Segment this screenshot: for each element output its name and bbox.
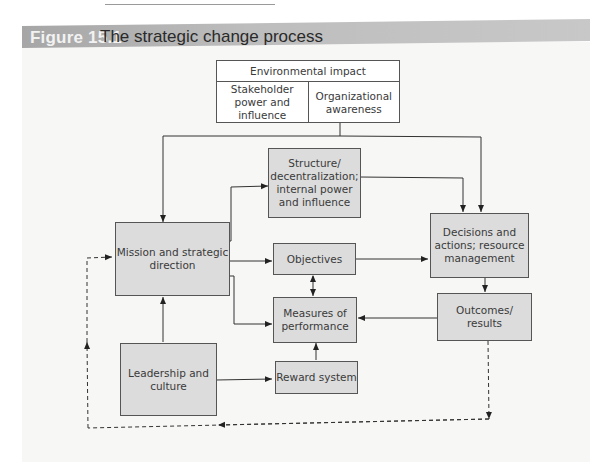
outcomes-box: Outcomes/ results (437, 293, 532, 341)
measures-label: Measures of performance (274, 307, 356, 333)
outcomes-label: Outcomes/ results (438, 304, 531, 330)
mission-label: Mission and strategic direction (116, 246, 229, 272)
objectives-box: Objectives (273, 243, 356, 275)
objectives-label: Objectives (287, 253, 342, 266)
environmental-impact-label: Environmental impact (217, 61, 399, 82)
decisions-box: Decisions and actions; resource manageme… (430, 213, 529, 278)
mission-box: Mission and strategic direction (115, 222, 230, 296)
environmental-impact-box: Environmental impact Stakeholder power a… (216, 60, 400, 123)
leadership-label: Leadership and culture (121, 367, 216, 393)
stakeholder-power-cell: Stakeholder power and influence (217, 82, 308, 123)
reward-label: Reward system (276, 371, 356, 384)
measures-box: Measures of performance (273, 297, 357, 343)
leadership-box: Leadership and culture (120, 343, 217, 416)
decisions-label: Decisions and actions; resource manageme… (431, 226, 528, 265)
organizational-awareness-cell: Organizational awareness (308, 82, 400, 123)
reward-box: Reward system (275, 361, 358, 394)
structure-box: Structure/ decentralization; internal po… (268, 148, 361, 218)
structure-label: Structure/ decentralization; internal po… (269, 157, 360, 209)
